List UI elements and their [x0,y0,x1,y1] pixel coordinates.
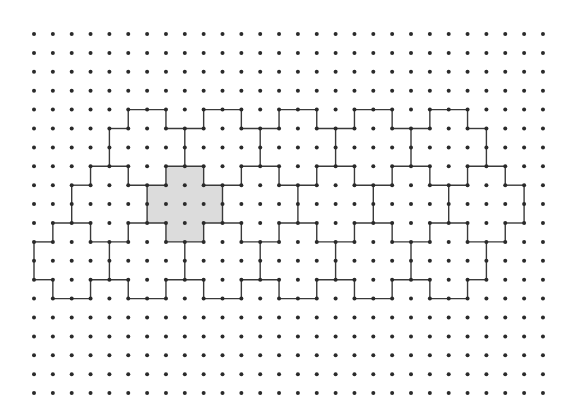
grid-dot [221,164,225,168]
grid-dot [541,202,545,206]
grid-dot [334,221,338,225]
grid-dot [352,145,356,149]
grid-dot [296,183,300,187]
grid-dot [32,316,36,320]
grid-dot [447,145,451,149]
grid-dot [390,334,394,338]
grid-dot [296,221,300,225]
grid-dot [315,391,319,395]
grid-dot [70,372,74,376]
grid-dot [107,334,111,338]
grid-dot [277,183,281,187]
grid-dot [89,32,93,36]
grid-dot [390,51,394,55]
grid-dot [484,51,488,55]
grid-dot [70,145,74,149]
grid-dot [70,127,74,131]
grid-dot [390,278,394,282]
grid-dot [164,70,168,74]
grid-dot [447,221,451,225]
grid-dot [296,353,300,357]
grid-dot [164,202,168,206]
grid-dot [126,164,130,168]
grid-dot [296,164,300,168]
grid-dot [107,240,111,244]
grid-dot [503,221,507,225]
grid-dot [239,221,243,225]
grid-dot [296,278,300,282]
grid-dot [409,51,413,55]
grid-dot [428,108,432,112]
grid-dot [51,127,55,131]
grid-dot [89,51,93,55]
grid-dot [522,372,526,376]
grid-dot [107,259,111,263]
grid-dot [239,183,243,187]
grid-dot [522,145,526,149]
grid-dot [32,89,36,93]
grid-dot [447,202,451,206]
grid-dot [503,127,507,131]
grid-dot [409,202,413,206]
grid-dot [390,145,394,149]
grid-dot [221,108,225,112]
grid-dot [447,127,451,131]
grid-dot [277,202,281,206]
grid-dot [466,240,470,244]
grid-dot [164,353,168,357]
grid-dot [541,89,545,93]
grid-dot [390,70,394,74]
grid-dot [409,127,413,131]
grid-dot [164,334,168,338]
grid-dot [409,278,413,282]
grid-dot [70,297,74,301]
grid-dot [484,259,488,263]
grid-dot [466,145,470,149]
grid-dot [428,32,432,36]
grid-dot [107,316,111,320]
grid-dot [296,334,300,338]
grid-dot [239,108,243,112]
grid-dot [277,221,281,225]
grid-dot [466,70,470,74]
grid-dot [126,70,130,74]
grid-dot [522,278,526,282]
grid-dot [89,70,93,74]
grid-dot [390,127,394,131]
grid-dot [221,278,225,282]
grid-dot [428,353,432,357]
grid-dot [522,51,526,55]
grid-dot [334,127,338,131]
grid-dot [296,297,300,301]
grid-dot [522,70,526,74]
grid-dot [390,240,394,244]
grid-dot [371,145,375,149]
grid-dot [390,316,394,320]
grid-dot [164,145,168,149]
grid-dot [409,70,413,74]
grid-dot [89,127,93,131]
grid-dot [183,108,187,112]
grid-dot [315,127,319,131]
grid-dot [466,164,470,168]
grid-dot [352,89,356,93]
grid-dot [258,127,262,131]
grid-dot [296,89,300,93]
grid-dot [447,32,451,36]
grid-dot [202,183,206,187]
grid-dot [89,108,93,112]
grid-dot [447,334,451,338]
grid-dot [484,32,488,36]
grid-dot [447,372,451,376]
grid-dot [466,108,470,112]
grid-dot [466,259,470,263]
grid-dot [202,51,206,55]
grid-dot [409,297,413,301]
grid-dot [503,32,507,36]
grid-dot [296,127,300,131]
grid-dot [522,297,526,301]
grid-dot [183,183,187,187]
grid-dot [202,70,206,74]
grid-dot [390,391,394,395]
grid-dot [202,108,206,112]
